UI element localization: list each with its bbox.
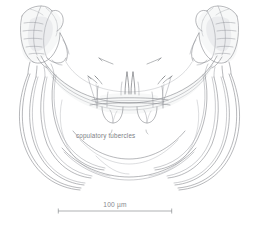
drawing-svg: copulatory tubercles 100 µm bbox=[0, 0, 259, 226]
copulatory-tubercles-label: copulatory tubercles bbox=[76, 132, 135, 140]
scale-bar-label: 100 µm bbox=[103, 201, 127, 209]
scale-bar: 100 µm bbox=[58, 201, 172, 214]
figure-canvas: copulatory tubercles 100 µm bbox=[0, 0, 259, 226]
